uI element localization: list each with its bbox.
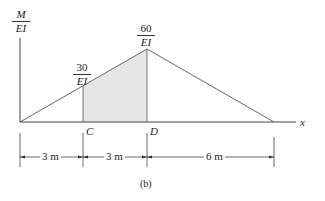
peak-value-denominator: EI <box>137 36 155 48</box>
y-axis-label-denominator: EI <box>12 22 30 34</box>
falling-line <box>147 49 274 122</box>
point-c-value-numerator: 30 <box>73 62 91 75</box>
dimension-label-1: 3 m <box>40 151 61 162</box>
y-axis-label-numerator: M <box>12 9 30 22</box>
point-c-label: C <box>86 126 93 137</box>
point-c-value-label: 30 EI <box>73 62 91 87</box>
point-d-label: D <box>150 126 158 137</box>
dimension-label-3: 6 m <box>204 151 225 162</box>
x-axis-label: x <box>300 117 305 128</box>
dimension-label-2: 3 m <box>104 151 125 162</box>
figure-caption: (b) <box>140 179 152 189</box>
peak-value-label: 60 EI <box>137 23 155 48</box>
point-c-value-denominator: EI <box>73 75 91 87</box>
peak-value-numerator: 60 <box>137 23 155 36</box>
y-axis-label: M EI <box>12 9 30 34</box>
shaded-region-cd <box>83 49 147 122</box>
moment-diagram <box>0 0 325 201</box>
